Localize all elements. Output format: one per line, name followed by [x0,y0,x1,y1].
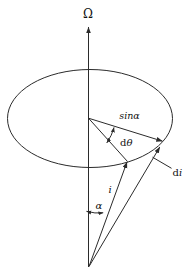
di-label-i: i [179,167,182,178]
omega-label: Ω [83,7,93,21]
alpha-angle-arrow [87,211,104,213]
i-label: i [108,184,111,195]
dtheta-angle-arc [107,128,114,143]
alpha-label: α [96,200,103,211]
dtheta-label-theta: θ [126,137,132,148]
sin-alpha-label: sinα [119,110,140,121]
di-leader-line [153,157,172,168]
i-vector-arrow [89,162,127,267]
figure-canvas: Ω sinα dθ di i α [0,0,188,273]
di-label: di [173,167,183,178]
dtheta-label: dθ [120,137,132,148]
precession-diagram: Ω sinα dθ di i α [0,0,188,273]
